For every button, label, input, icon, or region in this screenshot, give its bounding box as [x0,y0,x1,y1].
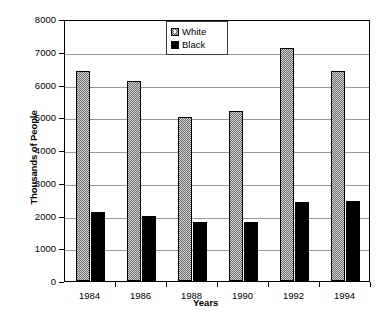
bar-black-1990 [244,222,258,281]
x-axis-tick-mark [370,282,371,287]
x-axis-tick-mark [166,282,167,287]
bar-black-1994 [346,201,360,281]
bar-chart: Thousands of People 01000200030004000500… [0,0,391,328]
gridline [65,87,369,88]
y-axis-tick-label: 5000 [8,113,56,123]
y-axis-tick-label: 8000 [8,15,56,25]
bar-white-1984 [76,71,90,281]
legend-label-white: White [182,26,206,37]
legend-item-white: White [171,25,223,38]
bar-black-1988 [193,222,207,281]
gridline [65,152,369,153]
bar-black-1992 [295,202,309,281]
x-axis-tick-label-1992: 1992 [272,290,316,301]
x-axis-tick-label-1984: 1984 [68,290,112,301]
bar-white-1986 [127,81,141,281]
x-axis-tick-label-1990: 1990 [221,290,265,301]
x-axis-title: Years [193,297,218,308]
x-axis-tick-mark [115,282,116,287]
y-axis-tick-label: 1000 [8,244,56,254]
x-axis-tick-label-1986: 1986 [119,290,163,301]
plot-area [64,20,370,282]
y-axis-tick-label: 2000 [8,212,56,222]
bar-white-1994 [331,71,345,281]
legend-item-black: Black [171,38,223,51]
y-axis-tick-label: 6000 [8,81,56,91]
bar-black-1984 [91,212,105,281]
bar-white-1992 [280,48,294,281]
gridline [65,185,369,186]
y-axis-tick-label: 7000 [8,48,56,58]
x-axis-tick-mark [319,282,320,287]
x-axis-tick-mark [268,282,269,287]
bar-white-1988 [178,117,192,281]
bar-black-1986 [142,216,156,282]
x-axis-tick-label-1994: 1994 [323,290,367,301]
checkered-swatch-icon [171,28,179,36]
chart-legend: White Black [166,21,228,55]
y-axis-tick-mark [59,282,64,283]
bar-white-1990 [229,111,243,281]
legend-label-black: Black [182,39,205,50]
y-axis-tick-label: 4000 [8,146,56,156]
gridline [65,218,369,219]
gridline [65,250,369,251]
y-axis-tick-label: 0 [8,277,56,287]
solid-black-swatch-icon [171,41,179,49]
y-axis-tick-label: 3000 [8,179,56,189]
x-axis-tick-mark [217,282,218,287]
gridline [65,119,369,120]
